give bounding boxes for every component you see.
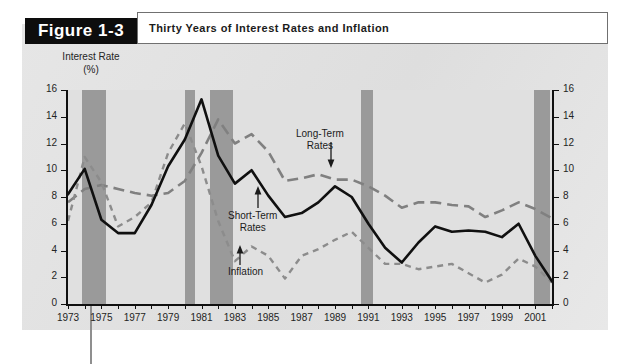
- y-tick-l-14: [61, 117, 66, 118]
- figure-root: Figure 1-3 Thirty Years of Interest Rate…: [0, 0, 629, 364]
- y-label-l-10: 10: [46, 163, 57, 174]
- y-tick-r-0: [554, 304, 559, 305]
- x-axis-line: [66, 304, 554, 306]
- x-tick-1996: [452, 304, 453, 309]
- annotation-inflation: Inflation: [228, 266, 263, 278]
- y-tick-l-12: [61, 144, 66, 145]
- y-label-l-4: 4: [51, 244, 57, 255]
- y-label-l-8: 8: [51, 190, 57, 201]
- x-label-1993: 1993: [391, 312, 413, 323]
- y-tick-l-4: [61, 251, 66, 252]
- x-tick-1999: [502, 304, 503, 309]
- annotation-long-term-rates: Long-Term Rates: [296, 128, 344, 152]
- x-label-1979: 1979: [157, 312, 179, 323]
- x-tick-1981: [202, 304, 203, 309]
- x-label-1973: 1973: [57, 312, 79, 323]
- y-label-r-8: 8: [563, 190, 569, 201]
- x-tick-1989: [335, 304, 336, 309]
- x-tick-1973: [68, 304, 69, 309]
- x-tick-1988: [318, 304, 319, 309]
- x-tick-1976: [118, 304, 119, 309]
- y-label-r-10: 10: [563, 163, 574, 174]
- x-label-1987: 1987: [291, 312, 313, 323]
- x-tick-1983: [235, 304, 236, 309]
- arrow-short-term: [255, 186, 262, 208]
- y-label-l-2: 2: [51, 270, 57, 281]
- y-axis-title: Interest Rate (%): [36, 50, 146, 76]
- annotation-short-term-rates: Short-Term Rates: [228, 210, 277, 234]
- y-label-l-12: 12: [46, 137, 57, 148]
- x-tick-1984: [252, 304, 253, 309]
- series-lines: [68, 90, 552, 304]
- y-label-r-0: 0: [563, 297, 569, 308]
- x-tick-1977: [135, 304, 136, 309]
- annotation-short-term-line1: Short-Term: [228, 210, 277, 221]
- x-tick-1985: [268, 304, 269, 309]
- figure-title-bar: Thirty Years of Interest Rates and Infla…: [137, 12, 608, 44]
- y-tick-r-8: [554, 197, 559, 198]
- x-tick-1975: [101, 304, 102, 309]
- y-tick-r-6: [554, 224, 559, 225]
- y-label-r-2: 2: [563, 270, 569, 281]
- y-axis-title-line1: Interest Rate: [62, 51, 119, 62]
- x-tick-2001: [535, 304, 536, 309]
- figure-number-tag: Figure 1-3: [25, 18, 137, 44]
- annotation-long-term-line2: Rates: [307, 140, 333, 151]
- y-label-l-6: 6: [51, 217, 57, 228]
- y-tick-l-10: [61, 170, 66, 171]
- y-tick-l-2: [61, 277, 66, 278]
- x-label-1981: 1981: [190, 312, 212, 323]
- plot-area: 0246810121416 0246810121416 197319751977…: [68, 90, 552, 304]
- x-label-1989: 1989: [324, 312, 346, 323]
- y-label-l-14: 14: [46, 110, 57, 121]
- x-tick-1991: [368, 304, 369, 309]
- x-label-1999: 1999: [491, 312, 513, 323]
- x-label-1995: 1995: [424, 312, 446, 323]
- y-tick-l-0: [61, 304, 66, 305]
- x-tick-1979: [168, 304, 169, 309]
- x-tick-1990: [352, 304, 353, 309]
- y-tick-r-2: [554, 277, 559, 278]
- y-tick-l-8: [61, 197, 66, 198]
- y-label-r-4: 4: [563, 244, 569, 255]
- x-tick-2000: [519, 304, 520, 309]
- x-tick-1978: [151, 304, 152, 309]
- y-axis-left-line: [66, 90, 68, 304]
- line-short-term-rates: [68, 99, 552, 281]
- left-margin-rule: [90, 300, 92, 364]
- x-label-1983: 1983: [224, 312, 246, 323]
- y-label-r-12: 12: [563, 137, 574, 148]
- x-tick-2002: [552, 304, 553, 309]
- x-tick-1997: [469, 304, 470, 309]
- y-label-r-6: 6: [563, 217, 569, 228]
- y-label-r-16: 16: [563, 83, 574, 94]
- x-tick-1993: [402, 304, 403, 309]
- y-tick-r-4: [554, 251, 559, 252]
- y-label-r-14: 14: [563, 110, 574, 121]
- y-tick-r-10: [554, 170, 559, 171]
- x-label-1985: 1985: [257, 312, 279, 323]
- annotation-long-term-line1: Long-Term: [296, 128, 344, 139]
- y-label-l-0: 0: [51, 297, 57, 308]
- x-label-1977: 1977: [124, 312, 146, 323]
- x-label-1997: 1997: [457, 312, 479, 323]
- x-label-1991: 1991: [357, 312, 379, 323]
- x-tick-1994: [418, 304, 419, 309]
- arrow-inflation: [237, 245, 244, 265]
- x-tick-1986: [285, 304, 286, 309]
- y-label-l-16: 16: [46, 83, 57, 94]
- y-tick-r-12: [554, 144, 559, 145]
- x-tick-1980: [185, 304, 186, 309]
- x-label-1975: 1975: [90, 312, 112, 323]
- x-label-2001: 2001: [524, 312, 546, 323]
- y-tick-r-16: [554, 90, 559, 91]
- y-tick-r-14: [554, 117, 559, 118]
- x-tick-1998: [485, 304, 486, 309]
- y-tick-l-16: [61, 90, 66, 91]
- x-tick-1992: [385, 304, 386, 309]
- x-tick-1995: [435, 304, 436, 309]
- x-tick-1982: [218, 304, 219, 309]
- annotation-short-term-line2: Rates: [240, 222, 266, 233]
- y-axis-title-line2: (%): [83, 64, 99, 75]
- x-tick-1987: [302, 304, 303, 309]
